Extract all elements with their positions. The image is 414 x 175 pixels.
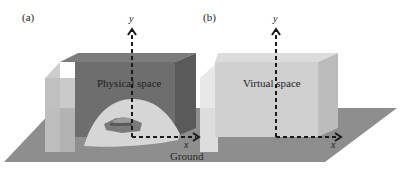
virtual-box-side: [318, 53, 338, 137]
virtual-space-label: Virtual space: [243, 77, 301, 89]
virtual-box-front: [215, 62, 318, 137]
physical-box-side: [175, 53, 196, 137]
figure: (a) (b) y y x x Physical space Virtual s…: [0, 0, 414, 175]
x-axis-label-b: x: [331, 139, 335, 150]
panel-label-b: (b): [203, 11, 216, 23]
physical-translucent-front: [45, 78, 75, 152]
ground-label: Ground: [170, 150, 204, 162]
diagram-canvas: [0, 0, 414, 175]
x-axis-label-a: x: [184, 139, 188, 150]
y-axis-label-a: y: [129, 13, 133, 24]
y-axis-label-b: y: [273, 13, 277, 24]
panel-label-a: (a): [22, 11, 34, 23]
physical-box-top: [60, 53, 196, 62]
physical-space-label: Physical space: [97, 77, 161, 89]
